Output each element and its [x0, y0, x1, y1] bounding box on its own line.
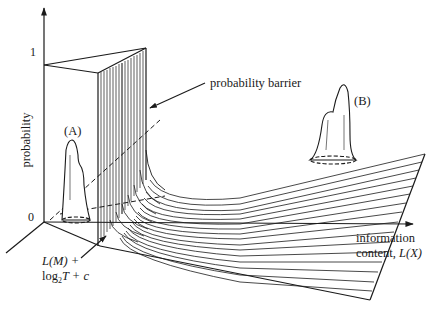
tick-zero: 0 [28, 210, 34, 224]
y-axis-label: probability [19, 112, 33, 168]
threshold-label-line2: log2T + c [42, 269, 89, 285]
barrier-arrow [150, 83, 205, 108]
x-axis-label-line2: content, L(X) [356, 246, 422, 260]
x-axis-label-line1: information [356, 231, 416, 245]
information-axis [44, 222, 413, 224]
probability-barrier-wall [98, 48, 165, 246]
barrier-label: probability barrier [210, 76, 302, 90]
probability-surface-floor [100, 154, 425, 300]
peak-b [310, 85, 356, 164]
peak-b-label: (B) [354, 94, 371, 108]
peak-a-label: (A) [64, 124, 81, 138]
probability-barrier-diagram: 1 0 probability probability barrier (A) … [0, 0, 434, 311]
depth-axis [6, 222, 44, 253]
threshold-label-line1: L(M) + [41, 254, 79, 268]
tick-one: 1 [30, 45, 36, 59]
peak-a [62, 140, 90, 223]
